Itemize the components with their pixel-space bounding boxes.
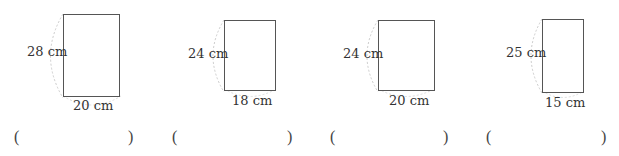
answer-blank[interactable] xyxy=(496,128,596,148)
height-label: 25 cm xyxy=(506,46,546,60)
open-paren: ( xyxy=(486,128,491,146)
width-label: 15 cm xyxy=(545,96,585,110)
problem-4: 25 cm 15 cm ( ) xyxy=(0,0,619,156)
rectangle-figure xyxy=(542,19,584,93)
close-paren: ) xyxy=(601,128,606,146)
